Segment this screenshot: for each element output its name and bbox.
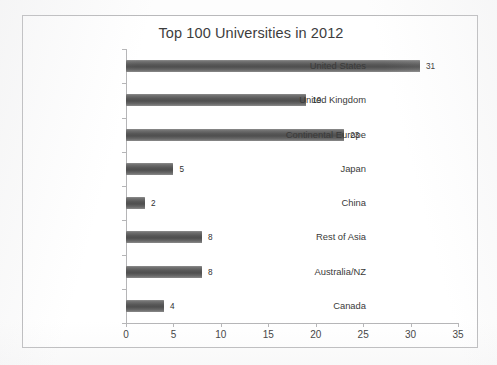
y-axis-tick [122, 289, 126, 290]
x-axis-tick-25 [363, 323, 364, 327]
category-label-united-kingdom: United Kingdom [166, 95, 366, 105]
bar-china[interactable] [126, 197, 145, 209]
category-label-japan: Japan [166, 164, 366, 174]
x-axis-tick-15 [268, 323, 269, 327]
category-label-canada: Canada [166, 301, 366, 311]
y-axis-tick [122, 83, 126, 84]
y-axis-tick [122, 255, 126, 256]
x-axis-label-5: 5 [158, 329, 188, 340]
category-label-australia-nz: Australia/NZ [166, 267, 366, 277]
x-axis-label-0: 0 [111, 329, 141, 340]
category-label-continental-europe: Continental Europe [166, 130, 366, 140]
category-label-china: China [166, 198, 366, 208]
x-axis-label-10: 10 [206, 329, 236, 340]
y-axis-tick [122, 49, 126, 50]
bar-value-united-states: 31 [426, 62, 435, 71]
x-axis-tick-5 [173, 323, 174, 327]
x-axis-label-35: 35 [443, 329, 473, 340]
x-axis-tick-30 [411, 323, 412, 327]
x-axis-label-15: 15 [253, 329, 283, 340]
x-axis-tick-35 [458, 323, 459, 327]
x-axis-tick-20 [316, 323, 317, 327]
x-axis-label-30: 30 [396, 329, 426, 340]
chart-title: Top 100 Universities in 2012 [23, 25, 479, 41]
y-axis-tick [122, 220, 126, 221]
chart-screenshot: Top 100 Universities in 2012 31192352884… [0, 0, 497, 365]
x-axis-tick-10 [221, 323, 222, 327]
x-axis-label-25: 25 [348, 329, 378, 340]
category-label-united-states: United States [166, 61, 366, 71]
x-axis-tick-0 [126, 323, 127, 327]
bar-canada[interactable] [126, 300, 164, 312]
category-label-rest-of-asia: Rest of Asia [166, 232, 366, 242]
x-axis-label-20: 20 [301, 329, 331, 340]
x-axis-line [126, 323, 459, 324]
y-axis-tick [122, 152, 126, 153]
y-axis-tick [122, 118, 126, 119]
y-axis-tick [122, 323, 126, 324]
chart-frame: Top 100 Universities in 2012 31192352884… [22, 15, 478, 348]
y-axis-tick [122, 186, 126, 187]
bar-value-china: 2 [151, 199, 156, 208]
plot-area: 31192352884 [126, 49, 458, 323]
